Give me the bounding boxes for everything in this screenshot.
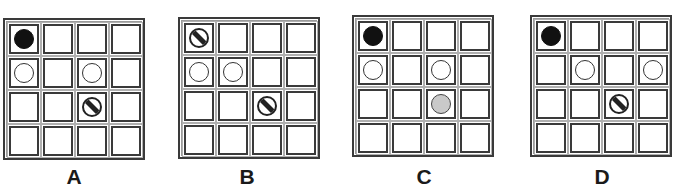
grid-cell (460, 89, 490, 119)
grid-frame (178, 17, 320, 159)
grid-cell (570, 21, 600, 51)
grid (536, 21, 668, 153)
grid-cell (43, 92, 73, 122)
grid-cell (536, 55, 566, 85)
grid-frame (530, 15, 672, 157)
grid-cell (426, 55, 456, 85)
grid (9, 24, 141, 156)
grid-cell (218, 57, 248, 87)
grid-cell (252, 57, 282, 87)
white-disc-icon (363, 60, 383, 80)
grid-cell (426, 89, 456, 119)
grid-cell (460, 21, 490, 51)
grid-cell (358, 21, 388, 51)
grid-cell (43, 58, 73, 88)
striped-disc-icon (189, 28, 209, 48)
grid-cell (286, 125, 316, 155)
grid-cell (570, 89, 600, 119)
black-disc-icon (14, 29, 34, 49)
grid-cell (9, 92, 39, 122)
grid-cell (358, 123, 388, 153)
grid-cell (9, 58, 39, 88)
grid-cell (536, 123, 566, 153)
grid-cell (392, 89, 422, 119)
white-disc-icon (643, 60, 663, 80)
grid-cell (43, 24, 73, 54)
grid-cell (286, 91, 316, 121)
grid-cell (218, 91, 248, 121)
striped-disc-icon (82, 97, 102, 117)
grid-cell (9, 24, 39, 54)
striped-disc-icon (609, 94, 629, 114)
grid-cell (604, 55, 634, 85)
grid-cell (604, 21, 634, 51)
grid-cell (638, 55, 668, 85)
grid-cell (392, 55, 422, 85)
grid-cell (604, 123, 634, 153)
grid-cell (184, 57, 214, 87)
grid-frame (3, 18, 145, 160)
grid-cell (218, 23, 248, 53)
option-label: A (3, 165, 145, 189)
option-label: C (353, 165, 495, 189)
grid-cell (111, 126, 141, 156)
grid-cell (426, 123, 456, 153)
grid-cell (536, 21, 566, 51)
cropped-heading (0, 0, 680, 8)
grid-cell (111, 24, 141, 54)
grid-cell (460, 55, 490, 85)
grid-cell (638, 89, 668, 119)
white-disc-icon (189, 62, 209, 82)
grid-cell (77, 24, 107, 54)
grid-cell (43, 126, 73, 156)
option-label: B (176, 165, 318, 189)
white-disc-icon (431, 60, 451, 80)
grid-cell (570, 55, 600, 85)
grid (358, 21, 490, 153)
grid-cell (111, 92, 141, 122)
option-label: D (531, 165, 673, 189)
gray-disc-icon (431, 94, 451, 114)
grid-cell (286, 23, 316, 53)
grid-cell (426, 21, 456, 51)
white-disc-icon (575, 60, 595, 80)
grid-cell (184, 23, 214, 53)
grid-cell (460, 123, 490, 153)
grid-cell (536, 89, 566, 119)
grid-cell (77, 58, 107, 88)
grid-cell (111, 58, 141, 88)
white-disc-icon (223, 62, 243, 82)
white-disc-icon (14, 63, 34, 83)
grid-cell (252, 23, 282, 53)
grid-cell (286, 57, 316, 87)
black-disc-icon (541, 26, 561, 46)
grid-cell (604, 89, 634, 119)
grid-cell (184, 125, 214, 155)
grid-cell (218, 125, 248, 155)
grid-cell (638, 21, 668, 51)
grid (184, 23, 316, 155)
grid-cell (392, 21, 422, 51)
grid-cell (638, 123, 668, 153)
grid-cell (9, 126, 39, 156)
white-disc-icon (82, 63, 102, 83)
grid-cell (358, 89, 388, 119)
grid-cell (77, 92, 107, 122)
striped-disc-icon (257, 96, 277, 116)
grid-cell (77, 126, 107, 156)
grid-cell (184, 91, 214, 121)
grid-cell (392, 123, 422, 153)
grid-cell (252, 91, 282, 121)
grid-cell (358, 55, 388, 85)
grid-cell (570, 123, 600, 153)
grid-cell (252, 125, 282, 155)
grid-frame (352, 15, 494, 157)
black-disc-icon (363, 26, 383, 46)
